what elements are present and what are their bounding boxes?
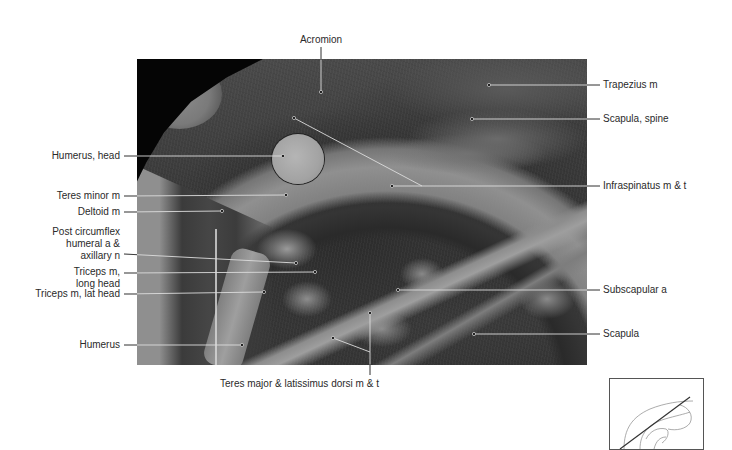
label-teres-minor: Teres minor m: [0, 190, 120, 202]
label-trapezius: Trapezius m: [603, 79, 658, 91]
shoulder-outline-icon: [610, 379, 703, 449]
label-subscapular: Subscapular a: [603, 284, 667, 296]
label-acromion: Acromion: [271, 34, 371, 46]
label-post-circumflex-line2: humeral a &: [0, 238, 120, 250]
label-scapula: Scapula: [603, 328, 639, 340]
section-plane-line: [620, 397, 690, 449]
label-post-circumflex-line1: Post circumflex: [0, 226, 120, 238]
label-teres-major: Teres major & latissimus dorsi m & t: [220, 378, 376, 390]
label-humerus: Humerus: [0, 339, 120, 351]
label-triceps-lat: Triceps m, lat head: [0, 288, 120, 300]
fascia-stripe: [215, 229, 217, 365]
cross-section-photo: [137, 59, 587, 365]
humeral-head: [272, 134, 324, 184]
orientation-inset: [609, 378, 704, 450]
label-humerus-head: Humerus, head: [0, 150, 120, 162]
label-scapula-spine: Scapula, spine: [603, 113, 669, 125]
label-triceps-long-line1: Triceps m,: [0, 266, 120, 278]
label-deltoid: Deltoid m: [0, 206, 120, 218]
label-infraspinatus: Infraspinatus m & t: [603, 180, 686, 192]
label-post-circumflex-line3: axillary n: [0, 250, 120, 262]
